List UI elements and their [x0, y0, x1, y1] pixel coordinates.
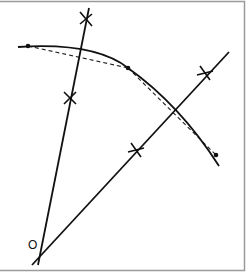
diagram-canvas: O	[0, 0, 249, 275]
cross-tick-marks	[64, 12, 213, 157]
arc-point-dots	[26, 44, 219, 158]
origin-label: O	[28, 238, 37, 252]
circular-arc	[18, 46, 219, 166]
construction-drawing	[0, 0, 249, 275]
frame-border	[0, 2, 245, 271]
dashed-chords	[28, 46, 216, 155]
ray-2	[32, 52, 229, 265]
